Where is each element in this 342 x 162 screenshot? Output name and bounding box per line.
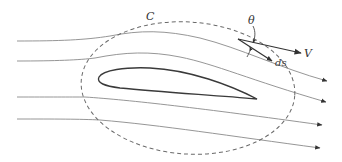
velocity-label: V [304, 47, 313, 60]
vectors [238, 39, 301, 61]
angle-arc-theta [253, 26, 255, 43]
streamline-4 [17, 119, 320, 148]
streamline-3 [17, 97, 322, 125]
contour-label: C [146, 10, 155, 23]
angle-arc-lower [247, 47, 250, 57]
contour-c [77, 15, 300, 162]
streamlines [17, 32, 327, 148]
velocity-vector [238, 39, 301, 53]
airfoil-circulation-diagram: C θ V ds [0, 0, 342, 162]
theta-label: θ [248, 14, 255, 27]
line-element-label: ds [275, 57, 287, 68]
